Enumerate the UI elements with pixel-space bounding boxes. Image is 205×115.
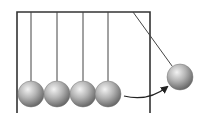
strings xyxy=(31,12,172,81)
balls xyxy=(18,64,193,107)
curved-arrow-icon xyxy=(124,87,167,98)
newtons-cradle-diagram xyxy=(0,0,205,115)
swinging-string xyxy=(133,12,172,66)
swinging-ball xyxy=(167,64,193,90)
resting-ball xyxy=(44,81,70,107)
resting-ball xyxy=(18,81,44,107)
motion-arrow xyxy=(124,87,167,98)
resting-ball xyxy=(95,81,121,107)
resting-ball xyxy=(70,81,96,107)
